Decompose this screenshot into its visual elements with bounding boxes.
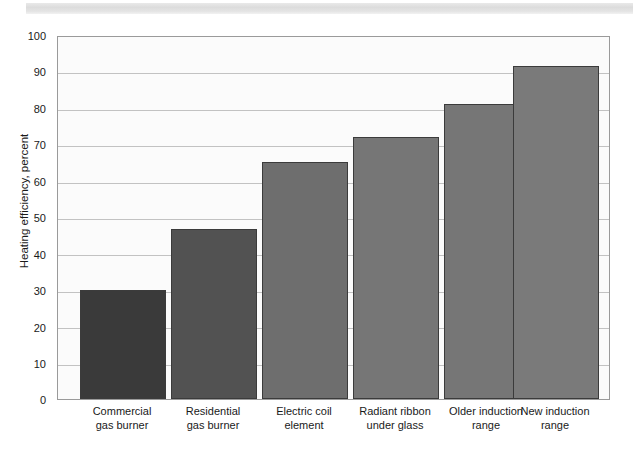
y-axis-title: Heating efficiency, percent	[18, 91, 30, 311]
bar-chart-figure: 100 90 80 70 60 50 40 30 20 10 0 Heating…	[0, 0, 633, 455]
x-label-line-2: range	[500, 418, 610, 432]
bar-new-induction-range	[513, 66, 599, 399]
y-tick-0: 0	[0, 395, 46, 406]
plot-area	[57, 36, 610, 400]
x-axis-tick-labels: Commercial gas burner Residential gas bu…	[57, 404, 610, 450]
x-label-line-1: New induction	[500, 404, 610, 418]
y-tick-20: 20	[0, 323, 46, 334]
bar-residential-gas-burner	[171, 229, 257, 399]
y-tick-10: 10	[0, 359, 46, 370]
y-tick-100: 100	[0, 31, 46, 42]
bar-radiant-ribbon-under-glass	[353, 137, 439, 399]
bar-commercial-gas-burner	[80, 290, 166, 399]
x-label-new-induction-range: New induction range	[500, 404, 610, 432]
y-tick-90: 90	[0, 67, 46, 78]
bar-electric-coil-element	[262, 162, 348, 399]
